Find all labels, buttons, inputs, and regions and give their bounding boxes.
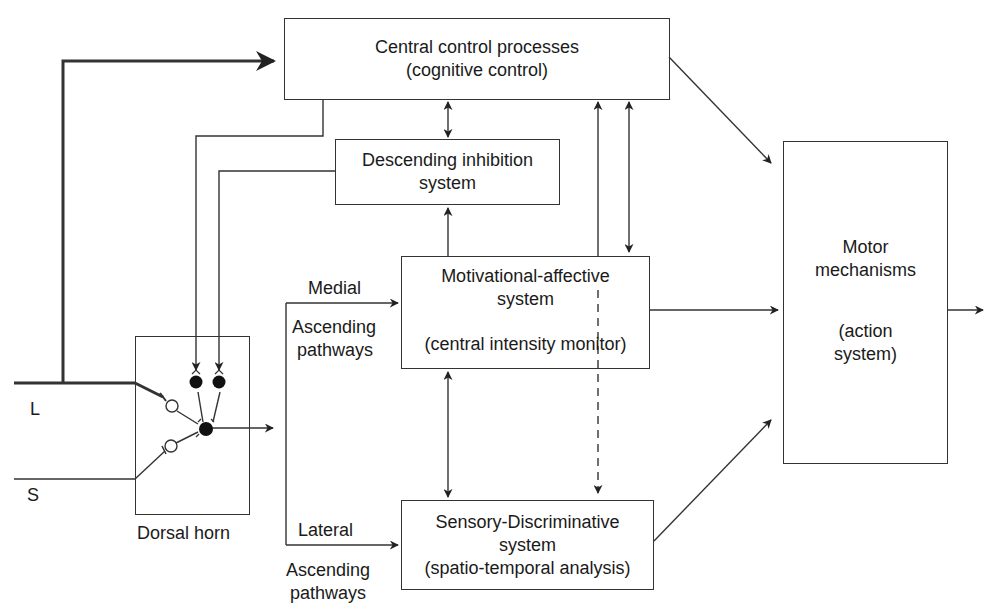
- motivational-affective-subtitle: system: [497, 288, 554, 311]
- sensory-discriminative-title: Sensory-Discriminative: [435, 511, 619, 534]
- lateral-label: Lateral: [298, 519, 353, 541]
- s-fiber-label: S: [27, 484, 39, 506]
- lateral-ascending-label: Ascending: [286, 559, 370, 581]
- motor-subtitle: mechanisms: [815, 259, 916, 282]
- descending-inhibition-title: Descending inhibition: [362, 149, 533, 172]
- central-control-title: Central control processes: [375, 36, 579, 59]
- central-control-box: Central control processes (cognitive con…: [284, 18, 670, 100]
- motor-title: Motor: [842, 236, 888, 259]
- motor-mechanisms-box: Motor mechanisms (action system): [783, 141, 948, 464]
- sensory-to-motor-link: [654, 420, 771, 541]
- dorsal-horn-box: [135, 336, 250, 515]
- motivational-affective-box: Motivational-affective system (central i…: [401, 256, 650, 369]
- motor-note-line2: system): [834, 343, 897, 366]
- medial-ascending-label: Ascending: [292, 316, 376, 338]
- medial-pathways-label: pathways: [297, 339, 373, 361]
- central-control-subtitle: (cognitive control): [406, 59, 548, 82]
- sensory-discriminative-box: Sensory-Discriminative system (spatio-te…: [401, 500, 654, 590]
- descending-inhibition-box: Descending inhibition system: [335, 139, 560, 205]
- sensory-discriminative-note: (spatio-temporal analysis): [424, 557, 630, 580]
- central-to-motor-link: [669, 57, 771, 163]
- dorsal-horn-caption: Dorsal horn: [137, 522, 230, 544]
- sensory-discriminative-subtitle: system: [499, 534, 556, 557]
- motivational-affective-title: Motivational-affective: [441, 265, 610, 288]
- medial-label: Medial: [308, 277, 361, 299]
- motor-note-line1: (action: [838, 320, 892, 343]
- motivational-affective-note: (central intensity monitor): [424, 333, 626, 356]
- lateral-pathways-label: pathways: [290, 582, 366, 604]
- descending-inhibition-subtitle: system: [419, 172, 476, 195]
- l-fiber-label: L: [30, 398, 40, 420]
